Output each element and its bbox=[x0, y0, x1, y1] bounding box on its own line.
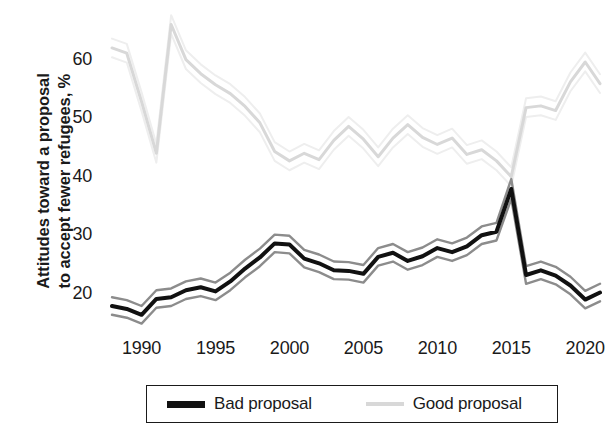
series-bad-proposal bbox=[112, 179, 600, 324]
chart-figure: Attitudes toward a proposal to accept fe… bbox=[0, 0, 613, 428]
legend-label-bad-proposal: Bad proposal bbox=[214, 394, 312, 414]
legend-label-good-proposal: Good proposal bbox=[413, 394, 522, 414]
series-good-proposal bbox=[112, 15, 600, 186]
chart-legend: Bad proposal Good proposal bbox=[146, 385, 558, 423]
legend-entry-bad-proposal: Bad proposal bbox=[167, 394, 312, 414]
legend-swatch-bad-proposal-line-icon bbox=[167, 401, 205, 408]
legend-entry-good-proposal: Good proposal bbox=[366, 394, 522, 414]
chart-plot-area bbox=[0, 0, 613, 428]
legend-swatch-good-proposal-line-icon bbox=[366, 402, 404, 406]
